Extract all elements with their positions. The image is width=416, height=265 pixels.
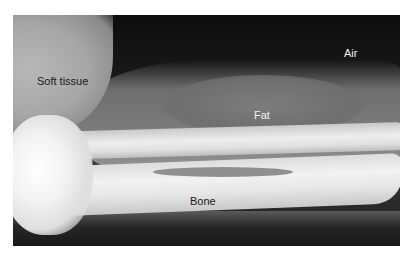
xray-image (13, 15, 400, 246)
label-bone: Bone (190, 195, 216, 208)
label-fat: Fat (254, 109, 270, 122)
label-soft-tissue: Soft tissue (37, 75, 88, 88)
label-air: Air (344, 47, 357, 60)
elbow-joint (13, 115, 93, 235)
interosseous-gap (153, 167, 293, 177)
